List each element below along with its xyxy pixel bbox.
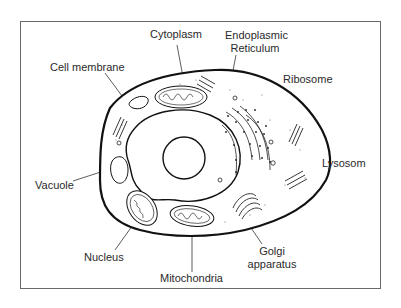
label-cytoplasm: Cytoplasm [150, 28, 202, 41]
label-nucleus: Nucleus [84, 251, 124, 264]
label-golgi-line1: Golgi [242, 245, 302, 258]
label-cell-membrane: Cell membrane [50, 61, 125, 74]
label-golgi-line2: apparatus [242, 258, 302, 271]
nucleolus-shape [163, 137, 205, 179]
vacuole-shape [111, 157, 128, 184]
label-er-line1: Endoplasmic [225, 29, 285, 42]
label-er-line2: Reticulum [225, 42, 285, 55]
label-endoplasmic-reticulum: Endoplasmic Reticulum [225, 29, 285, 55]
label-lysosome: Lysosom [322, 157, 366, 170]
label-ribosome: Ribosome [283, 73, 333, 86]
label-mitochondria: Mitochondria [160, 272, 223, 285]
label-golgi-apparatus: Golgi apparatus [242, 245, 302, 271]
cell-illustration [0, 0, 401, 308]
label-vacuole: Vacuole [35, 179, 74, 192]
